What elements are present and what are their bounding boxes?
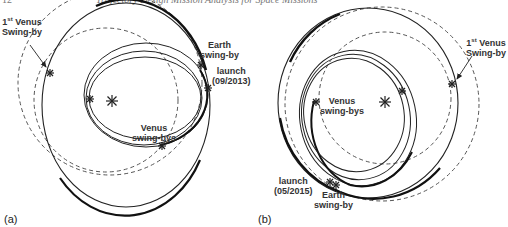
venus-swingbys-label-b: Venus swing-bys xyxy=(320,96,364,116)
sun-icon-a xyxy=(106,95,118,107)
orbit-diagrams xyxy=(0,0,508,227)
first-venus-swingby-label-b: 1st Venus Swing-by xyxy=(466,35,506,58)
venus-swingby-marker-b1 xyxy=(312,98,320,106)
first-venus-swingby-marker-b xyxy=(448,80,456,88)
label-line: Swing-by xyxy=(466,48,506,58)
launch-label-b: launch (05/2015) xyxy=(274,176,313,196)
first-venus-swingby-label-a: 1st Venus Swing-by xyxy=(2,14,42,37)
first-venus-swingby-marker-a xyxy=(46,69,54,77)
earth-swingby-label-b: Earth swing-by xyxy=(314,190,353,210)
panel-label-b: (b) xyxy=(258,213,271,225)
outer-transfer-orbit-a xyxy=(42,3,210,207)
launch-marker-a xyxy=(204,84,212,92)
label-line: swing-bys xyxy=(132,133,176,143)
earth-swingby-label-a: Earth swing-by xyxy=(200,40,239,60)
label-line: 1st Venus xyxy=(2,17,41,27)
launch-label-a: launch (09/2013) xyxy=(212,66,251,86)
label-line: 1st Venus xyxy=(466,35,506,48)
sun-icon-b xyxy=(379,96,391,108)
label-line: Earth xyxy=(200,40,239,50)
label-line: launch xyxy=(274,176,313,186)
panel-b-diagram xyxy=(278,7,479,201)
label-line: swing-bys xyxy=(320,106,364,116)
label-line: swing-by xyxy=(200,50,239,60)
earth-swingby-marker-b xyxy=(332,181,340,189)
label-line: Swing-by xyxy=(2,27,42,37)
label-line: Venus xyxy=(132,123,176,133)
venus-swingby-marker-a2 xyxy=(158,142,166,150)
venus-swingby-marker-b2 xyxy=(398,87,406,95)
panel-a-diagram xyxy=(18,0,212,216)
panel-label-a: (a) xyxy=(4,213,17,225)
label-line: swing-by xyxy=(314,200,353,210)
venus-swingby-marker-a1 xyxy=(86,95,94,103)
label-line: launch xyxy=(212,66,251,76)
venus-swingbys-label-a: Venus swing-bys xyxy=(132,123,176,143)
earth-orbit-a xyxy=(18,0,202,175)
label-line: Earth xyxy=(314,190,353,200)
label-line: (05/2015) xyxy=(274,186,313,196)
label-line: Venus xyxy=(320,96,364,106)
label-line: (09/2013) xyxy=(212,76,251,86)
earth-swingby-marker-a xyxy=(197,61,205,69)
